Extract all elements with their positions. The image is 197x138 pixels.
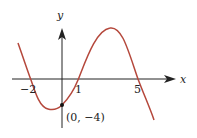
graph: y x −2 1 5 (0, −4) xyxy=(0,0,197,138)
point-annotation: (0, −4) xyxy=(66,111,105,124)
y-axis-label: y xyxy=(56,9,64,22)
x-axis-label: x xyxy=(180,73,187,86)
tick-label-neg2: −2 xyxy=(20,83,36,96)
y-intercept-point xyxy=(60,103,64,107)
tick-label-5: 5 xyxy=(134,83,141,96)
function-curve xyxy=(18,28,154,120)
tick-label-1: 1 xyxy=(75,83,82,96)
